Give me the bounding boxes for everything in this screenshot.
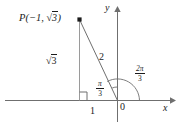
angle-inner-numerator: π [97, 80, 103, 88]
horizontal-leg-label: 1 [90, 106, 95, 116]
vertical-leg-radical: √3 [46, 56, 57, 66]
right-angle-marker [80, 92, 88, 101]
radical-argument: 3 [51, 54, 57, 66]
angle-label-standard: 2π 3 [135, 65, 145, 83]
y-axis-label: y [105, 3, 109, 13]
math-figure: P(−1, √3) √3 2 1 π 3 2π 3 0 x y [0, 0, 177, 127]
x-axis-label: x [163, 103, 167, 113]
angle-standard-denominator: 3 [137, 75, 143, 83]
vertical-leg-label: √3 [46, 56, 57, 66]
point-label-radical: √3 [47, 13, 58, 24]
angle-arc-inner [112, 87, 117, 88]
point-label-suffix: ) [58, 12, 62, 23]
angle-standard-numerator: 2π [135, 65, 145, 73]
hypotenuse-label: 2 [99, 52, 104, 62]
point-marker-p [77, 17, 81, 21]
point-label-p: P(−1, √3) [19, 13, 61, 24]
origin-label: 0 [120, 102, 125, 112]
angle-inner-denominator: 3 [97, 90, 103, 98]
point-label-prefix: P(−1, [19, 12, 47, 23]
angle-label-inner: π 3 [96, 80, 104, 98]
x-axis [5, 97, 176, 103]
